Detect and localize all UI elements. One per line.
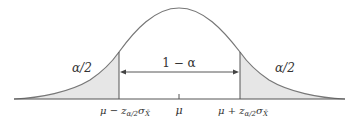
mu-label: μ (175, 104, 182, 117)
left-tail-shade (14, 52, 119, 99)
right-tail-shade (240, 52, 345, 99)
arrow-head-right-icon (233, 70, 239, 75)
normal-curve-diagram: α/2 α/2 1 − α μ μ − zα/2σX̄ μ + zα/2σX̄ (0, 0, 358, 123)
left-tail-label: α/2 (72, 61, 92, 75)
arrow-head-left-icon (120, 70, 126, 75)
center-interval-label: 1 − α (162, 56, 195, 70)
bell-curve (14, 8, 345, 99)
left-bound-label: μ − zα/2σX̄ (100, 105, 151, 118)
right-bound-label: μ + zα/2σX̄ (218, 105, 269, 118)
right-tail-label: α/2 (275, 61, 295, 75)
